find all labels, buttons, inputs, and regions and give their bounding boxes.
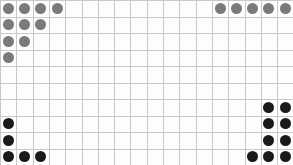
grid-dot-dark[interactable] — [35, 151, 46, 162]
grid-dot-dark[interactable] — [19, 151, 30, 162]
gridline-horizontal — [0, 149, 293, 150]
gridline-horizontal — [0, 50, 293, 51]
grid-dot-dark[interactable] — [247, 151, 258, 162]
grid-dot-gray[interactable] — [19, 19, 30, 30]
gridline-horizontal — [0, 132, 293, 133]
gridline-horizontal — [0, 17, 293, 18]
grid-dot-gray[interactable] — [3, 52, 14, 63]
grid-dot-gray[interactable] — [280, 3, 291, 14]
grid-dot-gray[interactable] — [52, 3, 63, 14]
grid-dot-gray[interactable] — [19, 36, 30, 47]
grid-dot-dark[interactable] — [3, 151, 14, 162]
grid-dot-dark[interactable] — [263, 102, 274, 113]
gridline-horizontal — [0, 116, 293, 117]
gridline-horizontal — [0, 33, 293, 34]
gridline-horizontal — [0, 0, 293, 1]
grid-dot-dark[interactable] — [263, 118, 274, 129]
grid-dot-dark[interactable] — [280, 151, 291, 162]
grid-dot-dark[interactable] — [280, 102, 291, 113]
dot-grid-board[interactable] — [0, 0, 293, 165]
grid-dot-dark[interactable] — [280, 118, 291, 129]
grid-dot-gray[interactable] — [35, 19, 46, 30]
grid-dot-gray[interactable] — [247, 3, 258, 14]
grid-dot-dark[interactable] — [3, 118, 14, 129]
grid-dot-dark[interactable] — [263, 151, 274, 162]
grid-dot-gray[interactable] — [3, 19, 14, 30]
grid-dot-gray[interactable] — [3, 3, 14, 14]
grid-dot-gray[interactable] — [35, 3, 46, 14]
grid-dot-dark[interactable] — [3, 135, 14, 146]
grid-dot-gray[interactable] — [19, 3, 30, 14]
grid-dot-gray[interactable] — [231, 3, 242, 14]
grid-dot-gray[interactable] — [215, 3, 226, 14]
grid-dot-gray[interactable] — [263, 3, 274, 14]
grid-dot-gray[interactable] — [3, 36, 14, 47]
gridline-horizontal — [0, 83, 293, 84]
grid-dot-dark[interactable] — [280, 135, 291, 146]
gridline-horizontal — [0, 66, 293, 67]
gridline-horizontal — [0, 99, 293, 100]
grid-dot-dark[interactable] — [263, 135, 274, 146]
